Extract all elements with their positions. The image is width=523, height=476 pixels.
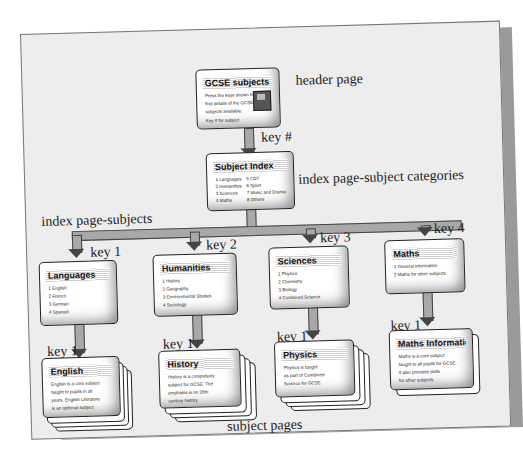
physics-card-title: Physics [281,347,347,361]
arrow-maths-info [419,317,435,326]
index-item: 4 Maths [216,197,247,203]
english-card-title: English [48,364,112,378]
maths-card-title: Maths [391,246,457,260]
arrow-key2 [186,242,202,251]
card-line: 4 Spanish [49,308,109,315]
card-line: 4 Combined Science [279,294,341,301]
card-line: subject for GCSE. The [168,381,232,388]
card-line: English is a core subject [51,380,111,387]
diagram-stage: header page key # index page-subject cat… [0,0,519,476]
card-line: 1 Physics [278,270,340,277]
index-item: 6 Sport [246,182,285,188]
card-line: 1 History [162,277,228,284]
card-line: 4 Sociology [163,301,229,308]
floppy-disk-icon [253,91,272,111]
card-line: 3 Biology [278,286,340,293]
label-index-categories: index page-subject categories [298,167,464,188]
index-item: 3 Sciences [216,190,247,196]
label-key-hash: key # [261,129,292,146]
maths-info-card-title: Maths Information [396,336,466,350]
index-item: 5 CDT [246,175,285,181]
arrow-key3 [302,234,318,243]
card-line: 3 Environmental Studies [163,293,229,300]
card-line: taught to all pupils for GCSE. [399,360,465,367]
card-line: 1 General information [394,262,456,269]
maths-information-card[interactable]: Maths Information Maths is a core subjec… [389,328,475,390]
card-line: 2 French [48,292,108,299]
label-key1: key 1 [90,244,121,261]
index-item: 8 Others [247,196,286,202]
label-key2: key 2 [206,237,237,254]
header-card-title: GCSE subjects [202,75,272,89]
history-card-title: History [165,357,233,371]
card-line: Physics is taught [284,364,346,371]
card-line: 1 English [48,284,108,291]
card-line: It also provides skills [399,368,465,375]
humanities-card-title: Humanities [160,261,230,275]
card-line: 2 Chemistry [278,278,340,285]
physics-card[interactable]: Physics Physics is taught as part of Com… [274,339,356,397]
arrow-key4 [417,227,433,236]
label-key3: key 3 [320,229,351,246]
sciences-card-title: Sciences [275,254,341,268]
card-line: Science for GCSE. [284,380,346,387]
label-key4: key 4 [434,220,465,237]
maths-card[interactable]: Maths 1 General information 2 Maths for … [384,238,465,294]
card-line: years. English Literature [51,396,111,403]
header-card-line: Key # for subject [206,117,272,124]
index-item: 7 Music and Drama [247,189,286,195]
label-index-subjects: index page-subjects [41,211,152,230]
card-line: 2 Geography [162,285,228,292]
card-line: 2 Maths for other subjects [394,270,456,277]
card-line: for other subjects [399,376,465,383]
subject-index-card[interactable]: Subject Index 1 Languages 2 Humanities 3… [206,151,296,211]
index-card-title: Subject Index [213,159,287,173]
card-line: taught to pupils in all [51,388,111,395]
languages-card-title: Languages [46,268,110,282]
sciences-card[interactable]: Sciences 1 Physics 2 Chemistry 3 Biology… [268,245,350,309]
index-item: 1 Languages [215,176,246,182]
languages-card[interactable]: Languages 1 English 2 French 3 German 4 … [39,260,119,326]
card-line: century history [168,397,232,404]
card-line: 3 German [49,300,109,307]
humanities-card[interactable]: Humanities 1 History 2 Geography 3 Envir… [152,253,238,317]
history-card[interactable]: History History is a compulsory subject … [158,348,242,408]
card-line: as part of Combined [284,372,346,379]
card-line: Maths is a core subject [398,352,464,359]
label-header-page: header page [295,71,363,89]
card-line: is an optional subject [52,404,112,411]
header-card[interactable]: GCSE subjects Press the keys shown to fi… [195,67,281,129]
index-item: 2 Humanities [215,183,246,189]
english-card[interactable]: English English is a core subject taught… [41,356,121,418]
card-line: History is a compulsory [168,373,232,380]
card-line: emphasis is on 20th [168,389,232,396]
arrow-key1 [68,249,84,258]
